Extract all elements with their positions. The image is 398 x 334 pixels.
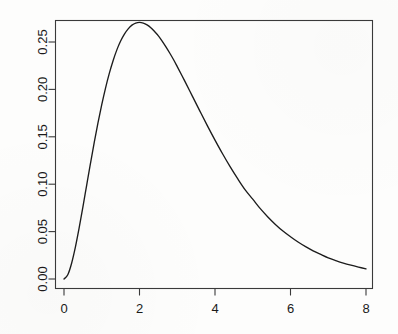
y-tick-label-0.20: 0.20 (35, 77, 50, 102)
chart-figure: 02468 0.000.050.100.150.200.25 (0, 0, 398, 334)
x-tick-label-6: 6 (287, 301, 294, 316)
x-axis-ticks (64, 289, 366, 296)
y-tick-label-0.10: 0.10 (35, 172, 50, 197)
x-tick-label-4: 4 (211, 301, 218, 316)
x-tick-label-0: 0 (60, 301, 67, 316)
y-tick-label-0.00: 0.00 (35, 266, 50, 291)
y-tick-label-0.15: 0.15 (35, 124, 50, 149)
density-plot: 02468 0.000.050.100.150.200.25 (0, 0, 398, 334)
x-axis-tick-labels: 02468 (60, 301, 369, 316)
y-tick-label-0.25: 0.25 (35, 29, 50, 54)
plot-box-frame (56, 21, 373, 289)
y-tick-label-0.05: 0.05 (35, 219, 50, 244)
x-tick-label-2: 2 (136, 301, 143, 316)
x-tick-label-8: 8 (362, 301, 369, 316)
density-curve-line (64, 22, 366, 279)
y-axis-tick-labels: 0.000.050.100.150.200.25 (35, 29, 50, 291)
